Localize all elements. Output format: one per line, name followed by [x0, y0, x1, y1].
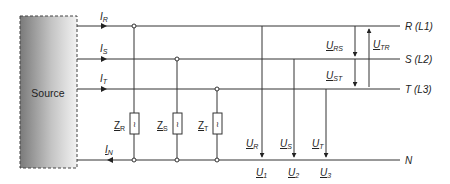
terminal-label-r: R (L1) — [405, 21, 433, 32]
svg-text:UT: UT — [312, 138, 324, 150]
phase-voltage-r: UR U1 — [246, 26, 267, 179]
svg-text:U2: U2 — [288, 167, 299, 179]
svg-text:UR: UR — [246, 138, 258, 150]
resistor-icon: ≀ — [216, 120, 219, 129]
current-label-n: IN — [105, 144, 114, 156]
current-label-r: IR — [100, 11, 108, 23]
impedance-label-r: ZR — [114, 120, 125, 132]
three-phase-diagram: Source IR IS IT IN R (L1) S (L2) T (L3) … — [0, 0, 450, 184]
impedance-label-t: ZT — [198, 120, 209, 132]
impedance-s: ≀ ZS — [157, 57, 182, 162]
source-block: Source — [20, 16, 77, 168]
arrow-icon — [107, 157, 113, 163]
resistor-icon: ≀ — [176, 120, 179, 129]
svg-text:US: US — [280, 138, 292, 150]
terminal-label-s: S (L2) — [405, 54, 432, 65]
svg-text:UTR: UTR — [373, 39, 390, 51]
arrow-icon — [101, 56, 107, 62]
svg-text:UST: UST — [326, 70, 343, 82]
impedance-t: ≀ ZT — [198, 87, 222, 162]
impedance-label-s: ZS — [157, 120, 168, 132]
svg-text:URS: URS — [326, 40, 343, 52]
source-label: Source — [31, 87, 64, 99]
current-label-s: IS — [100, 43, 108, 55]
line-voltage-tr: UTR — [369, 29, 390, 87]
current-label-t: IT — [100, 73, 108, 85]
arrow-icon — [101, 86, 107, 92]
svg-text:U1: U1 — [256, 167, 267, 179]
terminal-label-n: N — [405, 155, 413, 166]
resistor-icon: ≀ — [133, 120, 136, 129]
line-voltage-st: UST — [326, 59, 355, 86]
phase-voltage-t: UT U3 — [312, 89, 331, 179]
impedance-r: ≀ ZR — [114, 24, 139, 162]
line-voltage-rs: URS — [326, 26, 355, 56]
terminal-label-t: T (L3) — [405, 84, 432, 95]
arrow-icon — [101, 23, 107, 29]
svg-text:U3: U3 — [320, 167, 331, 179]
phase-voltage-s: US U2 — [280, 59, 299, 179]
